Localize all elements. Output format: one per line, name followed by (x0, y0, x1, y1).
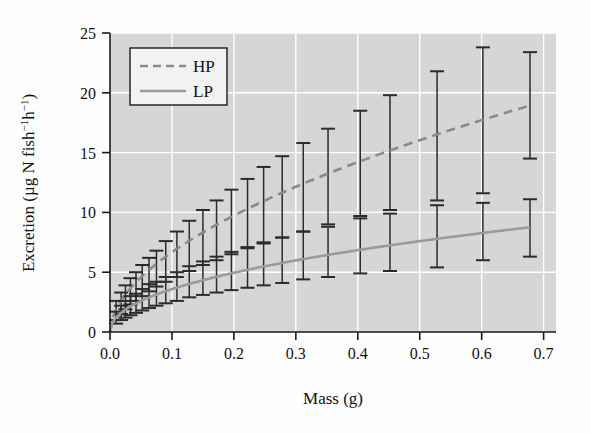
figure-container: 0.00.10.20.30.40.50.60.70510152025 Mass … (0, 0, 591, 433)
x-tick-label: 0.5 (410, 345, 430, 362)
y-tick-label: 20 (80, 85, 96, 102)
x-tick-label: 0.0 (100, 345, 120, 362)
x-tick-label: 0.4 (348, 345, 368, 362)
x-tick-label: 0.7 (534, 345, 554, 362)
y-tick-label: 10 (80, 204, 96, 221)
y-tick-label: 0 (88, 324, 96, 341)
chart-legend: HP LP (130, 48, 227, 105)
y-tick-label: 25 (80, 25, 96, 42)
svg-text:Excretion (µg N fish−1h−1): Excretion (µg N fish−1h−1) (18, 94, 38, 272)
y-tick-label: 15 (80, 145, 96, 162)
y-tick-label: 5 (88, 264, 96, 281)
legend-label-hp: HP (193, 57, 215, 76)
x-tick-label: 0.2 (224, 345, 244, 362)
excretion-vs-mass-chart: 0.00.10.20.30.40.50.60.70510152025 Mass … (0, 0, 591, 433)
x-tick-label: 0.3 (286, 345, 306, 362)
x-tick-label: 0.1 (162, 345, 182, 362)
legend-label-lp: LP (193, 82, 213, 101)
x-axis-title: Mass (g) (303, 389, 363, 408)
x-tick-label: 0.6 (472, 345, 492, 362)
y-axis-title: Excretion (µg N fish−1h−1) (18, 94, 38, 272)
